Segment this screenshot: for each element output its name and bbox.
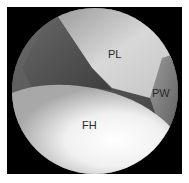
label-fh: FH [82,119,97,131]
label-pl: PL [108,48,121,60]
label-pw: PW [152,87,170,99]
image-frame: PL PW FH [7,7,182,174]
